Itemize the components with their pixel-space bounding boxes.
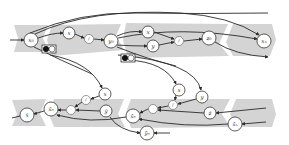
node-xnbar: x̄ₙ: [228, 117, 242, 131]
svg-text:z₀: z₀: [205, 35, 212, 41]
svg-text:x̄₀: x̄₀: [131, 113, 136, 119]
svg-text:x̄ₙ: x̄ₙ: [233, 121, 238, 127]
node-z0: z₀: [202, 31, 216, 45]
node-xbar: x̄: [20, 108, 34, 122]
node-f-forward-b: f: [175, 37, 184, 46]
node-ybar0: ȳ₀: [140, 126, 154, 140]
node-gbar-a: ·: [67, 106, 76, 115]
node-x-backward-d: x: [173, 84, 185, 96]
node-gbar-b: ·: [149, 105, 158, 114]
node-x-forward-a: x: [63, 27, 75, 39]
node-xn: xₙ: [257, 34, 271, 48]
computation-graph-diagram: x₀ x f y₀ x y f z₀ xₙ x̄ x̄₀ ·: [0, 0, 289, 145]
node-fbar-a: f: [82, 96, 91, 105]
node-x-backward-c: x: [99, 88, 111, 100]
svg-text:ȳ₀: ȳ₀: [144, 130, 150, 137]
node-y-forward-b: y: [147, 40, 159, 52]
node-x0: x₀: [24, 33, 38, 47]
node-x-forward-b: x: [142, 26, 154, 38]
svg-text:x̄₀: x̄₀: [49, 106, 54, 112]
svg-text:z̄: z̄: [208, 110, 212, 116]
svg-text:y₀: y₀: [107, 38, 114, 45]
node-xbar0-a: x̄₀: [44, 102, 58, 116]
node-zbar: z̄: [204, 107, 216, 119]
node-y0: y₀: [104, 34, 118, 48]
node-fbar-b: f: [169, 101, 178, 110]
svg-text:xₙ: xₙ: [261, 38, 266, 44]
node-y-backward-d: y: [196, 91, 208, 103]
node-xbar0-b: x̄₀: [126, 109, 140, 123]
checkpoint-box-2: [121, 54, 135, 62]
svg-text:·: ·: [70, 108, 71, 112]
checkpoint-box-1: [42, 45, 56, 53]
svg-text:·: ·: [152, 107, 153, 111]
node-ybar: ȳ: [100, 105, 112, 117]
svg-text:x₀: x₀: [28, 37, 34, 43]
node-f-forward-a: f: [85, 35, 94, 44]
